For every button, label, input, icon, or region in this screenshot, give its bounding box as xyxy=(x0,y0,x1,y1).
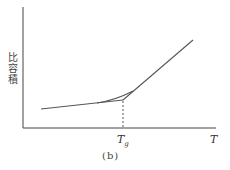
x-axis-label: T xyxy=(210,133,217,146)
y-axis-label: 比容積 xyxy=(6,52,19,85)
rubber-line xyxy=(123,40,193,100)
glass-line xyxy=(41,100,123,109)
figure-caption: (b) xyxy=(102,150,119,161)
specific-volume-diagram xyxy=(0,0,230,170)
tg-label-subscript: g xyxy=(124,140,128,148)
tg-label: Tg xyxy=(117,133,129,148)
